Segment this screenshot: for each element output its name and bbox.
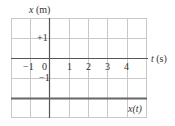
tick-3: 3 <box>105 61 110 72</box>
tick-minus1-y: −1 <box>39 72 50 83</box>
position-time-graph: x (m) t (s) +1 −1 −1 0 1 2 3 4 x(t) <box>0 0 175 126</box>
x-axis-label: t (s) <box>151 53 167 65</box>
tick-1: 1 <box>67 61 72 72</box>
tick-4: 4 <box>124 61 129 72</box>
y-axis-label: x (m) <box>28 4 50 16</box>
tick-minus1-x: −1 <box>23 61 34 72</box>
tick-0: 0 <box>42 61 47 72</box>
tick-plus1: +1 <box>37 32 48 43</box>
curve-label: x(t) <box>127 103 143 115</box>
tick-2: 2 <box>86 61 91 72</box>
